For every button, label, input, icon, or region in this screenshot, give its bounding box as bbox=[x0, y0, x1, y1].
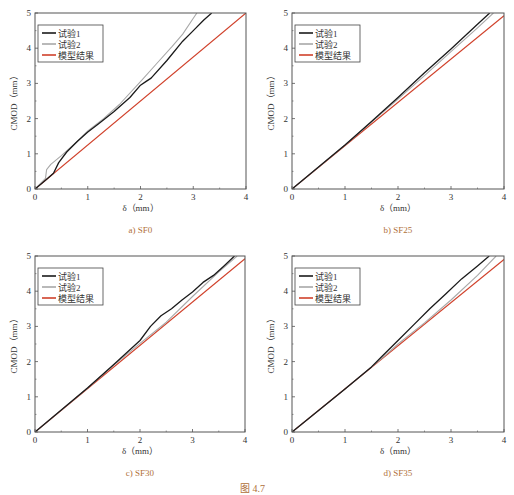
y-tick-label: 3 bbox=[27, 78, 32, 88]
y-tick-label: 0 bbox=[27, 184, 32, 194]
chart-panel-d: 01234012345δ（mm）CMOD（mm）试验1试验2模型结果 bbox=[257, 243, 514, 472]
legend-label: 模型结果 bbox=[315, 293, 351, 304]
legend-label: 试验2 bbox=[58, 39, 81, 50]
legend-label: 试验2 bbox=[315, 282, 338, 293]
y-tick-label: 1 bbox=[27, 149, 32, 159]
legend-label: 试验1 bbox=[315, 28, 338, 39]
x-tick-label: 2 bbox=[138, 435, 143, 445]
figure-caption: 图 4.7 bbox=[240, 480, 265, 495]
x-axis-label: δ（mm） bbox=[122, 446, 158, 456]
y-tick-label: 0 bbox=[27, 427, 32, 437]
x-axis-label: δ（mm） bbox=[122, 203, 158, 213]
y-tick-label: 5 bbox=[27, 251, 32, 261]
x-tick-label: 4 bbox=[244, 192, 249, 202]
y-tick-label: 0 bbox=[284, 427, 289, 437]
y-tick-label: 3 bbox=[27, 321, 32, 331]
x-tick-label: 2 bbox=[138, 192, 143, 202]
y-tick-label: 1 bbox=[284, 392, 289, 402]
x-tick-label: 0 bbox=[290, 192, 295, 202]
chart-d-plot: 01234012345δ（mm）CMOD（mm）试验1试验2模型结果 bbox=[257, 243, 514, 468]
x-tick-label: 4 bbox=[502, 435, 507, 445]
legend-label: 试验1 bbox=[58, 28, 81, 39]
y-axis-label: CMOD（mm） bbox=[266, 71, 276, 130]
chart-c-plot: 01234012345δ（mm）CMOD（mm）试验1试验2模型结果 bbox=[0, 243, 257, 468]
x-tick-label: 3 bbox=[190, 435, 195, 445]
chart-a-plot: 01234012345δ（mm）CMOD（mm）试验1试验2模型结果 bbox=[0, 0, 257, 225]
x-tick-label: 1 bbox=[85, 435, 90, 445]
x-tick-label: 1 bbox=[343, 435, 348, 445]
x-axis-label: δ（mm） bbox=[380, 203, 416, 213]
y-tick-label: 3 bbox=[284, 321, 289, 331]
x-tick-label: 2 bbox=[396, 435, 401, 445]
x-tick-label: 3 bbox=[449, 192, 454, 202]
y-tick-label: 0 bbox=[284, 184, 289, 194]
y-tick-label: 4 bbox=[284, 286, 289, 296]
y-axis-label: CMOD（mm） bbox=[9, 71, 19, 130]
y-tick-label: 5 bbox=[284, 251, 289, 261]
y-axis-label: CMOD（mm） bbox=[266, 314, 276, 373]
legend-label: 模型结果 bbox=[58, 50, 94, 61]
chart-b-plot: 01234012345δ（mm）CMOD（mm）试验1试验2模型结果 bbox=[257, 0, 514, 225]
x-tick-label: 0 bbox=[33, 435, 38, 445]
x-tick-label: 4 bbox=[502, 192, 507, 202]
x-tick-label: 1 bbox=[343, 192, 348, 202]
y-tick-label: 2 bbox=[27, 114, 32, 124]
y-tick-label: 3 bbox=[284, 78, 289, 88]
x-tick-label: 0 bbox=[33, 192, 38, 202]
legend-label: 模型结果 bbox=[315, 50, 351, 61]
y-tick-label: 5 bbox=[284, 8, 289, 18]
chart-c-caption: c) SF30 bbox=[35, 468, 245, 478]
x-tick-label: 3 bbox=[449, 435, 454, 445]
legend-label: 试验2 bbox=[315, 39, 338, 50]
x-tick-label: 4 bbox=[243, 435, 248, 445]
chart-a-caption: a) SF0 bbox=[35, 225, 246, 235]
legend-label: 试验2 bbox=[58, 282, 81, 293]
y-tick-label: 4 bbox=[284, 43, 289, 53]
x-tick-label: 1 bbox=[86, 192, 91, 202]
chart-panel-b: 01234012345δ（mm）CMOD（mm）试验1试验2模型结果 bbox=[257, 0, 514, 229]
y-tick-label: 1 bbox=[27, 392, 32, 402]
legend-label: 试验1 bbox=[315, 271, 338, 282]
legend: 试验1试验2模型结果 bbox=[38, 25, 103, 62]
y-axis-label: CMOD（mm） bbox=[9, 314, 19, 373]
y-tick-label: 2 bbox=[284, 114, 289, 124]
chart-b-caption: b) SF25 bbox=[292, 225, 504, 235]
legend: 试验1试验2模型结果 bbox=[38, 268, 103, 305]
y-tick-label: 2 bbox=[27, 357, 32, 367]
y-tick-label: 1 bbox=[284, 149, 289, 159]
chart-panel-a: 01234012345δ（mm）CMOD（mm）试验1试验2模型结果 bbox=[0, 0, 257, 229]
legend: 试验1试验2模型结果 bbox=[295, 25, 360, 62]
y-tick-label: 2 bbox=[284, 357, 289, 367]
chart-d-caption: d) SF35 bbox=[292, 468, 504, 478]
x-tick-label: 3 bbox=[191, 192, 196, 202]
legend: 试验1试验2模型结果 bbox=[295, 268, 360, 305]
chart-panel-c: 01234012345δ（mm）CMOD（mm）试验1试验2模型结果 bbox=[0, 243, 257, 472]
y-tick-label: 4 bbox=[27, 286, 32, 296]
legend-label: 试验1 bbox=[58, 271, 81, 282]
y-tick-label: 5 bbox=[27, 8, 32, 18]
y-tick-label: 4 bbox=[27, 43, 32, 53]
x-tick-label: 2 bbox=[396, 192, 401, 202]
x-tick-label: 0 bbox=[290, 435, 295, 445]
legend-label: 模型结果 bbox=[58, 293, 94, 304]
x-axis-label: δ（mm） bbox=[380, 446, 416, 456]
